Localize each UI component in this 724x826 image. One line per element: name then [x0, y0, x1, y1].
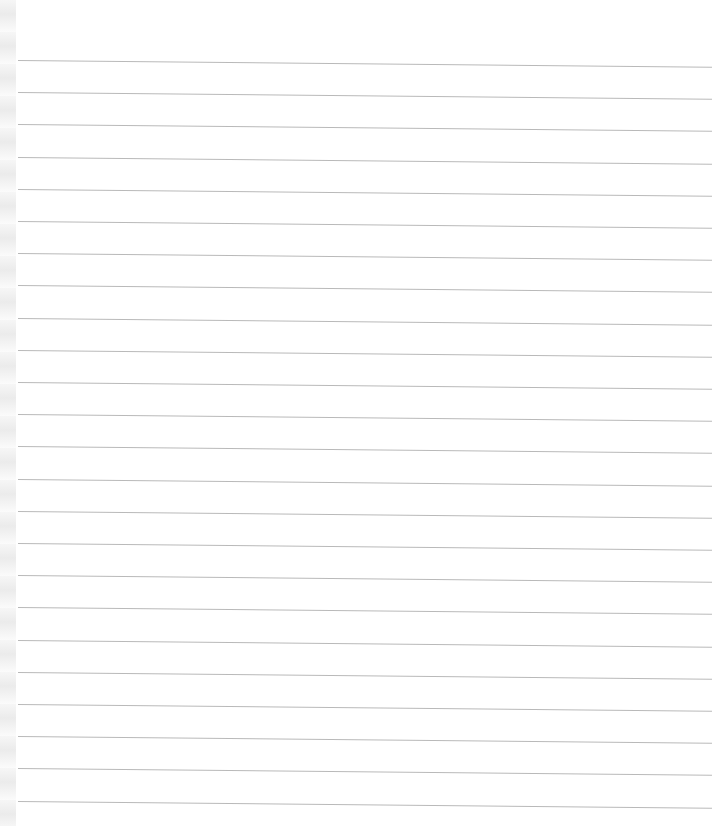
ruled-line — [18, 736, 712, 744]
ruled-line — [18, 704, 712, 712]
ruled-line — [18, 543, 712, 551]
ruled-line — [18, 575, 712, 583]
ruled-line — [18, 124, 712, 132]
ruled-line — [18, 253, 712, 261]
ruled-line — [18, 285, 712, 293]
ruled-line — [18, 607, 712, 615]
ruled-line — [18, 479, 712, 487]
ruled-line — [18, 318, 712, 326]
ruled-line — [18, 672, 712, 680]
ruled-line — [18, 801, 712, 809]
ruled-line — [18, 768, 712, 776]
torn-perforated-edge — [0, 0, 16, 826]
ruled-line — [18, 189, 712, 197]
ruled-line — [18, 350, 712, 358]
ruled-line — [18, 640, 712, 648]
ruled-line — [18, 92, 712, 100]
ruled-line — [18, 414, 712, 422]
notebook-page — [0, 0, 724, 826]
ruled-line — [18, 382, 712, 390]
ruled-line — [18, 60, 712, 68]
ruled-line — [18, 221, 712, 229]
ruled-line — [18, 446, 712, 454]
ruled-line — [18, 511, 712, 519]
ruled-line — [18, 157, 712, 165]
